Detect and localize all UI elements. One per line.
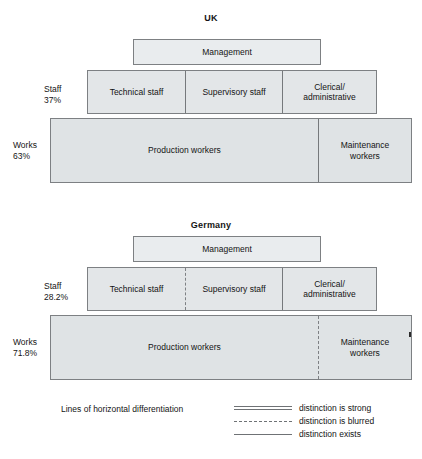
- uk-cell-clerical-administrative: Clerical/administrative: [282, 71, 376, 113]
- germany-cell-clerical-administrative-label: Clerical/administrative: [303, 279, 355, 300]
- uk-cell-production-workers: Production workers: [51, 119, 318, 182]
- germany-cell-maintenance-workers-label: Maintenanceworkers: [341, 337, 390, 358]
- germany-cell-maintenance-workers: Maintenanceworkers: [318, 316, 411, 379]
- scan-artifact-mark: [409, 332, 411, 337]
- legend-label-blurred: distinction is blurred: [299, 416, 374, 426]
- germany-cell-management: Management: [134, 237, 320, 261]
- legend-caption: Lines of horizontal differentiation: [61, 404, 183, 414]
- germany-cell-supervisory-staff-label: Supervisory staff: [202, 284, 265, 294]
- uk-cell-supervisory-staff: Supervisory staff: [185, 71, 282, 113]
- uk-cell-production-workers-label: Production workers: [148, 145, 221, 155]
- germany-cell-supervisory-staff: Supervisory staff: [185, 268, 282, 310]
- line-dashed-icon: [234, 417, 292, 425]
- germany-side-label-staff: Staff 28.2%: [44, 281, 68, 303]
- uk-side-label-staff-percent: 37%: [44, 95, 61, 105]
- line-solid-icon: [234, 430, 292, 438]
- germany-cell-production-workers-label: Production workers: [148, 342, 221, 352]
- germany-cell-technical-staff: Technical staff: [88, 268, 185, 310]
- legend-row-blurred: distinction is blurred: [234, 415, 374, 427]
- germany-side-label-works: Works 71.8%: [13, 337, 37, 359]
- uk-cell-clerical-administrative-label: Clerical/administrative: [303, 82, 355, 103]
- germany-side-label-works-percent: 71.8%: [13, 348, 37, 358]
- legend-label-strong: distinction is strong: [299, 403, 371, 413]
- germany-cell-production-workers: Production workers: [51, 316, 318, 379]
- legend-row-exists: distinction exists: [234, 428, 361, 440]
- uk-side-label-staff-text: Staff: [44, 84, 61, 94]
- uk-side-label-works-percent: 63%: [13, 151, 30, 161]
- uk-tier-works: Production workers Maintenanceworkers: [50, 118, 412, 183]
- uk-cell-maintenance-workers-label: Maintenanceworkers: [341, 140, 390, 161]
- uk-side-label-staff: Staff 37%: [44, 84, 61, 106]
- uk-cell-technical-staff: Technical staff: [88, 71, 185, 113]
- legend-row-strong: distinction is strong: [234, 402, 371, 414]
- legend-label-exists: distinction exists: [299, 429, 361, 439]
- figure-root: { "figure": { "caption": "Lines of horiz…: [0, 0, 422, 459]
- germany-side-label-works-text: Works: [13, 337, 37, 347]
- germany-side-label-staff-percent: 28.2%: [44, 292, 68, 302]
- uk-cell-technical-staff-label: Technical staff: [110, 87, 164, 97]
- chart-title-uk: UK: [0, 13, 422, 23]
- germany-cell-clerical-administrative: Clerical/administrative: [282, 268, 376, 310]
- uk-tier-management: Management: [133, 39, 321, 65]
- uk-cell-supervisory-staff-label: Supervisory staff: [202, 87, 265, 97]
- uk-side-label-works: Works 63%: [13, 140, 37, 162]
- chart-title-germany: Germany: [0, 220, 422, 230]
- germany-side-label-staff-text: Staff: [44, 281, 61, 291]
- uk-tier-staff: Technical staff Supervisory staff Cleric…: [87, 70, 377, 114]
- uk-cell-management: Management: [134, 40, 320, 64]
- germany-tier-works: Production workers Maintenanceworkers: [50, 315, 412, 380]
- uk-side-label-works-text: Works: [13, 140, 37, 150]
- germany-tier-staff: Technical staff Supervisory staff Cleric…: [87, 267, 377, 311]
- germany-cell-technical-staff-label: Technical staff: [110, 284, 164, 294]
- line-double-icon: [234, 404, 292, 412]
- uk-cell-maintenance-workers: Maintenanceworkers: [318, 119, 411, 182]
- germany-tier-management: Management: [133, 236, 321, 262]
